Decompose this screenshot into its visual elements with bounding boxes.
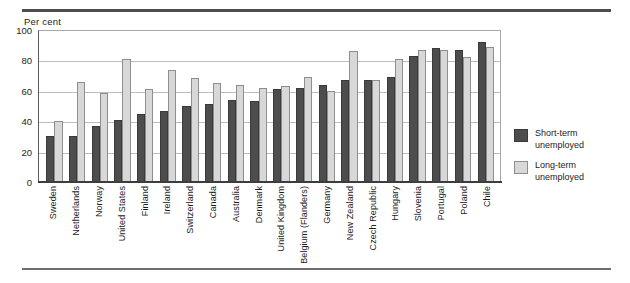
x-axis-label-item: Australia: [224, 184, 247, 264]
bar-group: [179, 31, 202, 182]
bar-short-term: [69, 136, 77, 182]
x-axis-label-text: Poland: [459, 186, 469, 215]
y-axis-tick-100: 100: [16, 25, 32, 36]
x-axis-line: [38, 181, 502, 183]
x-axis-label-text: Chile: [482, 186, 492, 207]
bar-short-term: [341, 80, 349, 182]
bar-group: [406, 31, 429, 182]
y-axis-tick-80: 80: [21, 55, 32, 66]
y-axis-tick-0: 0: [27, 177, 32, 188]
x-axis-label-text: Netherlands: [71, 186, 81, 236]
bar-long-term: [395, 59, 403, 182]
x-axis-label-text: Canada: [208, 186, 218, 218]
bar-short-term: [114, 120, 122, 182]
x-axis-label-item: Portugal: [430, 184, 453, 264]
bar-long-term: [77, 82, 85, 182]
bar-group: [43, 31, 66, 182]
legend-label-short-term-line2: unemployed: [535, 140, 584, 152]
x-axis-label-item: Chile: [475, 184, 498, 264]
x-axis-label-text: Sweden: [48, 186, 58, 219]
bar-short-term: [160, 111, 168, 182]
bar-group: [111, 31, 134, 182]
bar-group: [134, 31, 157, 182]
x-axis-label-item: Ireland: [156, 184, 179, 264]
x-axis-label-item: Sweden: [42, 184, 65, 264]
x-axis-label-text: Slovenia: [413, 186, 423, 221]
x-axis-label-item: Poland: [452, 184, 475, 264]
legend-label-long-term-line1: Long-term: [535, 160, 584, 172]
bar-group: [315, 31, 338, 182]
bar-short-term: [319, 85, 327, 182]
x-axis-label-text: Norway: [94, 186, 104, 217]
bar-group: [338, 31, 361, 182]
top-rule: [22, 9, 611, 12]
bar-short-term: [409, 56, 417, 182]
bar-group: [474, 31, 497, 182]
bar-short-term: [455, 50, 463, 182]
y-axis-tick-40: 40: [21, 116, 32, 127]
bar-long-term: [486, 47, 494, 182]
bar-short-term: [478, 42, 486, 182]
x-axis-label-text: Germany: [322, 186, 332, 224]
x-axis-label-item: Norway: [88, 184, 111, 264]
bar-long-term: [349, 51, 357, 182]
legend-item-short-term: Short-term unemployed: [514, 128, 624, 151]
bar-group: [452, 31, 475, 182]
legend-swatch-long-term-icon: [514, 161, 528, 174]
bar-short-term: [250, 101, 258, 182]
bar-long-term: [304, 77, 312, 182]
bar-long-term: [327, 91, 335, 182]
x-axis-label-item: United Kingdom: [270, 184, 293, 264]
x-axis-label-text: New Zealand: [345, 186, 355, 240]
legend-label-short-term-line1: Short-term: [535, 128, 584, 140]
bar-group: [384, 31, 407, 182]
x-axis-label-text: Denmark: [254, 186, 264, 223]
y-axis-tick-labels: 020406080100: [0, 0, 36, 283]
x-axis-label-text: United Kingdom: [276, 186, 286, 251]
x-axis-label-text: United States: [117, 186, 127, 241]
bar-long-term: [54, 121, 62, 182]
bar-group: [270, 31, 293, 182]
bar-group: [429, 31, 452, 182]
bar-short-term: [364, 80, 372, 182]
bar-long-term: [236, 85, 244, 182]
x-axis-label-text: Switzerland: [185, 186, 195, 234]
x-axis-label-text: Hungary: [390, 186, 400, 221]
x-axis-label-text: Czech Republic: [368, 186, 378, 250]
bar-long-term: [191, 78, 199, 182]
bar-short-term: [387, 77, 395, 182]
legend-label-long-term-line2: unemployed: [535, 172, 584, 184]
x-axis-label-item: Czech Republic: [361, 184, 384, 264]
bar-short-term: [137, 114, 145, 182]
bar-short-term: [273, 89, 281, 182]
bar-short-term: [46, 136, 54, 182]
bar-long-term: [122, 59, 130, 182]
legend-item-long-term: Long-term unemployed: [514, 160, 624, 183]
bar-group: [66, 31, 89, 182]
bar-long-term: [418, 50, 426, 182]
bar-short-term: [228, 100, 236, 182]
x-axis-label-item: Netherlands: [65, 184, 88, 264]
bar-short-term: [205, 104, 213, 182]
plot-area: [38, 30, 501, 182]
x-axis-label-item: Switzerland: [179, 184, 202, 264]
bar-group: [202, 31, 225, 182]
chart-figure: Per cent 020406080100 SwedenNetherlandsN…: [0, 0, 630, 283]
bar-long-term: [463, 57, 471, 182]
x-axis-label-item: Hungary: [384, 184, 407, 264]
bar-long-term: [372, 80, 380, 182]
x-axis-label-text: Portugal: [436, 186, 446, 220]
bar-short-term: [432, 48, 440, 182]
x-axis-label-item: Finland: [133, 184, 156, 264]
x-axis-label-text: Belgium (Flanders): [299, 186, 309, 264]
bar-group: [293, 31, 316, 182]
x-axis-label-item: Slovenia: [407, 184, 430, 264]
bottom-rule: [22, 268, 611, 270]
bar-long-term: [259, 88, 267, 182]
bar-group: [225, 31, 248, 182]
bar-short-term: [92, 126, 100, 182]
legend-swatch-short-term-icon: [514, 129, 528, 142]
bar-group: [247, 31, 270, 182]
legend: Short-term unemployed Long-term unemploy…: [514, 128, 624, 192]
y-axis-tick-20: 20: [21, 146, 32, 157]
